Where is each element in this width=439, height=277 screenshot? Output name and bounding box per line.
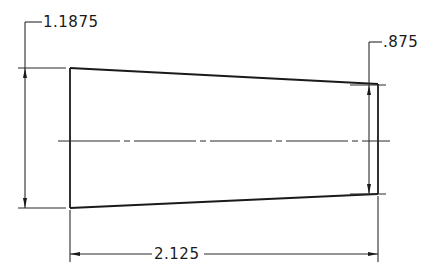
left-height-dimension: 1.1875	[18, 13, 99, 208]
part-top-edge	[70, 68, 378, 84]
right-height-label: .875	[383, 33, 418, 51]
length-left-arrowhead-icon	[70, 252, 80, 256]
right-bottom-arrowhead-icon	[367, 184, 371, 194]
part-outline	[70, 68, 378, 208]
left-height-label: 1.1875	[43, 13, 99, 31]
length-right-arrowhead-icon	[368, 252, 378, 256]
left-bottom-arrowhead-icon	[23, 198, 27, 208]
length-label: 2.125	[154, 245, 199, 263]
left-top-arrowhead-icon	[23, 68, 27, 78]
right-height-dimension: .875	[350, 33, 418, 194]
right-top-arrowhead-icon	[367, 85, 371, 95]
part-bottom-edge	[70, 194, 378, 208]
technical-drawing: 1.1875 .875 2.125	[0, 0, 439, 277]
